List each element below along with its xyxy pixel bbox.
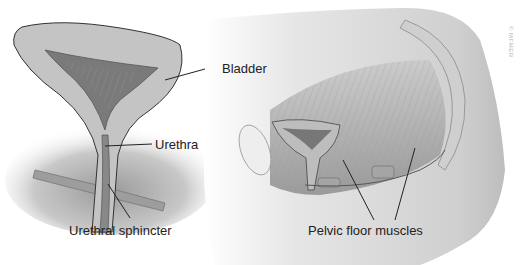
- urethral-sphincter-label: Urethral sphincter: [69, 224, 172, 237]
- bladder-closeup: [5, 23, 215, 235]
- pelvic-floor-muscles-label: Pelvic floor muscles: [308, 224, 423, 237]
- bladder-label: Bladder: [222, 62, 267, 75]
- urethra-label: Urethra: [155, 138, 198, 151]
- copyright-watermark: © MFMER: [508, 26, 514, 58]
- anatomy-illustration: Bladder Urethra Urethral sphincter Pelvi…: [0, 0, 521, 265]
